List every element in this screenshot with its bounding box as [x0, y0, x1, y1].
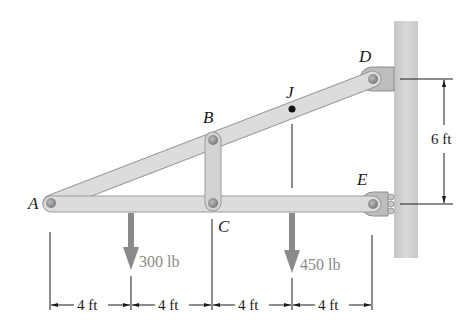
dim-label-1: 4 ft — [77, 297, 98, 313]
label-b: B — [203, 108, 214, 127]
label-a: A — [27, 194, 39, 213]
dim-label-3: 4 ft — [238, 297, 259, 313]
load-450-shaft — [289, 213, 295, 250]
dim-label-vertical: 6 ft — [431, 131, 452, 147]
load-450-arrowhead-icon — [284, 250, 300, 273]
load-300-label: 300 lb — [139, 253, 179, 270]
point-j — [289, 106, 296, 113]
pin-b — [208, 135, 218, 145]
dim-label-4: 4 ft — [318, 297, 339, 313]
pin-e — [368, 199, 378, 209]
pin-d — [368, 74, 378, 84]
load-450-label: 450 lb — [300, 256, 340, 273]
label-c: C — [218, 217, 230, 236]
pin-c — [208, 198, 218, 208]
label-d: D — [358, 47, 372, 66]
label-j: J — [286, 83, 295, 102]
roller-e-1 — [388, 194, 394, 200]
frame-diagram: A B C D E J 300 lb 450 lb 4 ft 4 ft 4 ft… — [0, 0, 473, 334]
label-e: E — [356, 170, 368, 189]
load-300-shaft — [128, 213, 134, 247]
wall — [394, 21, 418, 258]
dim-label-2: 4 ft — [158, 297, 179, 313]
roller-e-2 — [388, 201, 394, 207]
load-300-arrowhead-icon — [123, 247, 139, 270]
pin-a — [46, 198, 56, 208]
roller-e-3 — [388, 208, 394, 214]
